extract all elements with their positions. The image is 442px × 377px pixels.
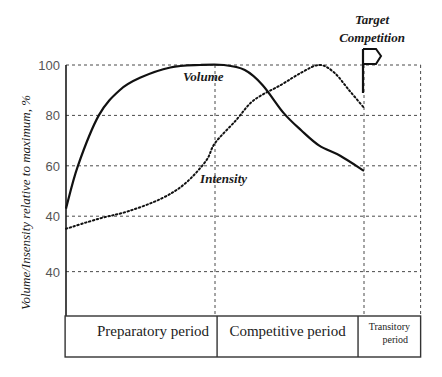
target-competition-label-line1: Target bbox=[355, 12, 390, 27]
volume-curve-label: Volume bbox=[183, 69, 224, 84]
y-tick-label: 60 bbox=[46, 159, 60, 174]
target-competition-label-line2: Competition bbox=[339, 30, 405, 45]
intensity-curve-label: Intensity bbox=[199, 171, 247, 186]
period-table: Preparatory period Competitive period Tr… bbox=[65, 316, 421, 357]
periodization-chart: 10080604040 Volume Intensity Target Comp… bbox=[0, 0, 442, 377]
annotation-layer: Volume Intensity Target Competition bbox=[183, 12, 405, 186]
period-transitory-line1: Transitory bbox=[369, 321, 410, 332]
y-tick-label: 40 bbox=[46, 265, 60, 280]
period-competitive: Competitive period bbox=[229, 323, 346, 339]
flag-icon bbox=[363, 49, 381, 93]
y-axis-label: Volume/Insensity relative to maximum, % bbox=[18, 95, 33, 310]
grid-layer bbox=[66, 65, 421, 316]
y-tick-label: 80 bbox=[46, 108, 60, 123]
flag-pennant bbox=[363, 49, 381, 64]
period-preparatory: Preparatory period bbox=[97, 323, 210, 339]
y-tick-label: 40 bbox=[46, 209, 60, 224]
period-transitory-line2: period bbox=[383, 334, 409, 345]
y-tick-label: 100 bbox=[38, 58, 60, 73]
y-tick-labels: 10080604040 bbox=[38, 58, 60, 280]
